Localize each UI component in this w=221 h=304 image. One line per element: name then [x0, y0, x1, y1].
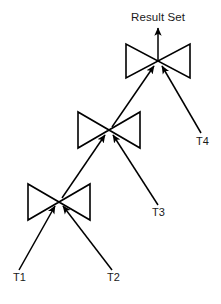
join-operator-bottom: [28, 184, 90, 220]
relation-label-t3: T3: [152, 207, 165, 218]
relation-label-t1: T1: [13, 272, 26, 283]
relation-label-t4: T4: [196, 136, 209, 147]
edge-t4-to-join3: [162, 66, 201, 133]
relation-label-t2: T2: [107, 272, 120, 283]
join-operator-middle: [78, 112, 140, 148]
edge-t2-to-join1: [63, 206, 112, 270]
figure-root: Result Set T1 T2 T3 T4: [0, 0, 221, 304]
result-set-label: Result Set: [131, 12, 185, 24]
join-tree-diagram: [0, 0, 221, 304]
